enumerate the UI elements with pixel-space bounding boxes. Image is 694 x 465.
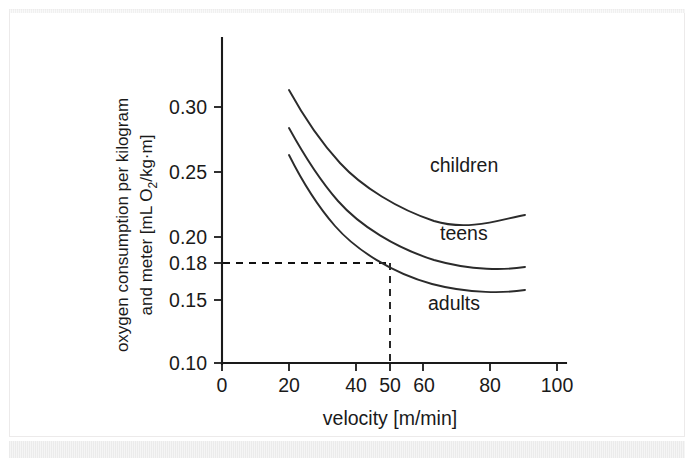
x-axis-ticks <box>222 363 557 371</box>
x-axis-title: velocity [m/min] <box>323 407 457 429</box>
y-tick-label-2: 0.20 <box>169 226 207 248</box>
x-tick-label-0: 0 <box>217 374 228 396</box>
y-tick-label-1: 0.25 <box>169 161 207 183</box>
y-axis-title-line1: oxygen consumption per kilogram <box>113 98 132 352</box>
oxygen-consumption-line-chart: 0.30 0.25 0.20 0.18 0.15 0.10 0 20 40 50… <box>0 0 694 465</box>
series-label-teens: teens <box>440 222 488 244</box>
x-tick-label-60: 60 <box>413 374 435 396</box>
figure-root: 0.30 0.25 0.20 0.18 0.15 0.10 0 20 40 50… <box>0 0 694 465</box>
y-axis-title-line2: and meter [mL O2/kg·m] <box>137 135 160 316</box>
x-tick-label-80: 80 <box>479 374 501 396</box>
x-tick-label-100: 100 <box>541 374 574 396</box>
x-tick-label-20: 20 <box>278 374 300 396</box>
series-label-children: children <box>430 154 498 176</box>
y-tick-label-3: 0.18 <box>169 252 207 274</box>
curve-teens <box>289 128 525 269</box>
y-axis-ticks <box>214 107 222 363</box>
y-tick-label-0: 0.30 <box>169 96 207 118</box>
x-tick-label-40: 40 <box>345 374 367 396</box>
x-tick-label-50: 50 <box>379 374 401 396</box>
y-tick-label-5: 0.10 <box>169 352 207 374</box>
y-tick-label-4: 0.15 <box>169 289 207 311</box>
series-label-adults: adults <box>428 292 480 314</box>
